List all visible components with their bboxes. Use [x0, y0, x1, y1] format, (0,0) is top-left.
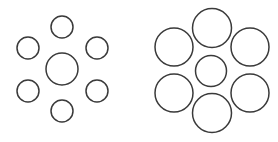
figure-background: [0, 0, 278, 142]
illusion-canvas: [0, 0, 278, 142]
ebbinghaus-illusion-figure: [0, 0, 278, 142]
